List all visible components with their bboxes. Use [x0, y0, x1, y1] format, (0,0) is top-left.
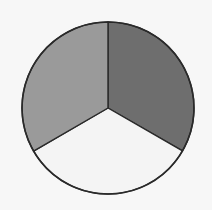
- pie-chart-canvas: Slice A: 33.33Slice B: 33.33Slice C: 33.…: [0, 0, 212, 210]
- pie-chart: Slice A: 33.33Slice B: 33.33Slice C: 33.…: [0, 0, 212, 210]
